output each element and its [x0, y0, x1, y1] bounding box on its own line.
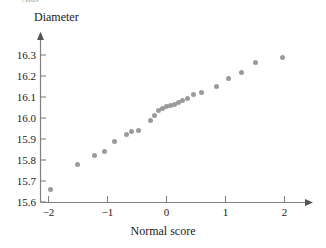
x-axis-title: Normal score — [0, 224, 326, 239]
y-axis-ticks — [41, 55, 47, 202]
x-axis-ticks — [49, 196, 285, 203]
scatter-point — [226, 76, 231, 81]
scatter-point — [180, 98, 185, 103]
y-tick-label: 15.8 — [2, 155, 36, 166]
y-tick-label: 16.1 — [2, 92, 36, 103]
scatter-point — [75, 162, 80, 167]
y-tick-label: 15.7 — [2, 176, 36, 187]
scatter-point — [136, 128, 141, 133]
y-tick-label: 16.0 — [2, 113, 36, 124]
scatter-point — [214, 84, 219, 89]
x-tick-label: −2 — [37, 207, 61, 218]
y-axis-title: Diameter — [34, 10, 79, 25]
x-tick-label: 0 — [155, 207, 179, 218]
y-tick-label: 15.6 — [2, 197, 36, 208]
x-tick-label: 2 — [273, 207, 297, 218]
y-tick-label: 15.9 — [2, 134, 36, 145]
scatter-point — [280, 55, 285, 60]
x-tick-label: 1 — [214, 207, 238, 218]
scatter-point — [112, 139, 117, 144]
x-tick-label: −1 — [96, 207, 120, 218]
normal-probability-plot: Aids Diameter Normal score 15. — [0, 0, 326, 248]
scatter-point — [253, 60, 258, 65]
scatter-point — [185, 96, 190, 101]
scatter-point — [148, 118, 153, 123]
y-tick-label: 16.2 — [2, 71, 36, 82]
y-tick-label: 16.3 — [2, 50, 36, 61]
